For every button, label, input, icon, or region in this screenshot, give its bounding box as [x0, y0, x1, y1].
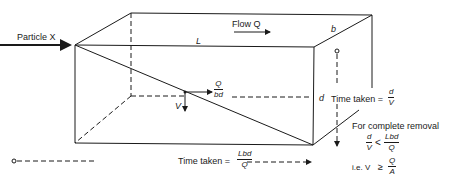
vertical-time-fraction: d V: [388, 88, 394, 107]
particle-label: Particle X: [17, 33, 56, 42]
horizontal-time-fraction: Lbd Q: [237, 150, 252, 169]
condition-prefix: i.e. V: [352, 164, 370, 172]
removal-lhs-fraction: d V: [366, 133, 372, 152]
horizontal-velocity-fraction: Q bd: [214, 80, 223, 99]
tank-drawing: [0, 0, 454, 182]
breadth-label: b: [331, 25, 336, 34]
less-than-symbol: <: [375, 138, 381, 148]
condition-rhs-fraction: Q A: [388, 157, 396, 176]
geq-symbol: ≥: [378, 163, 383, 172]
vertical-time-label: Time taken =: [331, 95, 383, 104]
length-label: L: [196, 37, 201, 46]
settling-velocity-label: V: [175, 102, 181, 111]
depth-label: d: [319, 94, 324, 103]
flow-label: Flow Q: [232, 20, 261, 29]
horizontal-time-label: Time taken =: [178, 157, 230, 166]
removal-heading: For complete removal: [352, 122, 439, 131]
removal-rhs-fraction: Lbd Q: [384, 133, 399, 152]
